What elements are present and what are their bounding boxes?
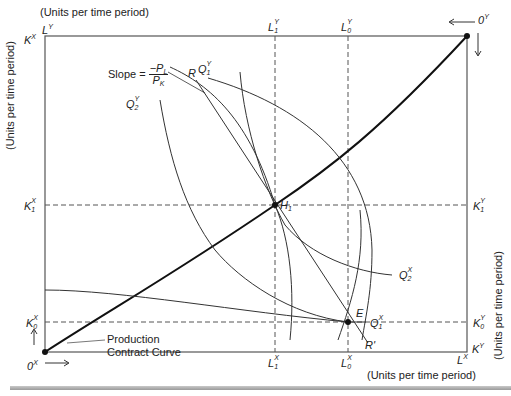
isoquant-left-arc — [160, 100, 348, 322]
tick-l1x: LX1 — [268, 358, 281, 369]
point-origin-x — [42, 349, 48, 355]
label-lx-bottom-right: LX — [457, 355, 468, 366]
point-e — [345, 319, 351, 325]
isoquant-h1-lower-arc — [275, 205, 292, 340]
label-e: E — [356, 308, 363, 319]
tick-l0y: LY0 — [341, 22, 354, 33]
tick-k1x: KX1 — [24, 201, 38, 212]
isoquant-q2y — [170, 67, 275, 205]
isoquant-q2x — [240, 72, 392, 275]
tick-k1y: KY1 — [473, 201, 487, 212]
point-origin-y — [464, 33, 470, 39]
tick-k0x: KX0 — [26, 318, 40, 329]
bottom-axis-title: (Units per time period) — [367, 370, 476, 381]
label-q1x: QX1 — [370, 318, 386, 329]
price-line-r — [196, 80, 368, 343]
slope-fraction: −PL PK — [149, 63, 169, 86]
tick-l1y: LY1 — [268, 22, 281, 33]
label-h1: H1 — [280, 200, 292, 211]
tick-l0x: LX0 — [341, 358, 354, 369]
label-ly-top-left: LY — [42, 25, 53, 36]
label-ky-bottom-right: KY — [472, 344, 484, 355]
label-r: R — [188, 68, 196, 79]
top-axis-title: (Units per time period) — [40, 7, 149, 18]
tick-k0y: KY0 — [473, 318, 487, 329]
left-axis-title: (Units per time period) — [4, 41, 16, 150]
bottom-border-bar — [10, 386, 511, 390]
right-axis-title: (Units per time period) — [492, 251, 504, 360]
label-origin-y: 0Y — [478, 15, 489, 26]
label-q2x: QX2 — [399, 270, 415, 281]
label-origin-x: 0X — [27, 361, 38, 372]
contract-curve-pointer — [67, 340, 105, 343]
edgeworth-box-diagram — [0, 0, 511, 396]
point-h1 — [272, 202, 278, 208]
slope-label: Slope = −PL PK — [108, 63, 168, 86]
contract-curve-label: Production Contract Curve — [107, 333, 181, 359]
label-kx-top-left: KX — [24, 35, 36, 46]
isoquant-q1x — [45, 290, 366, 322]
label-q1y: QY1 — [198, 64, 214, 75]
label-r-prime: R' — [365, 340, 375, 351]
label-q2y: QY2 — [126, 99, 142, 110]
